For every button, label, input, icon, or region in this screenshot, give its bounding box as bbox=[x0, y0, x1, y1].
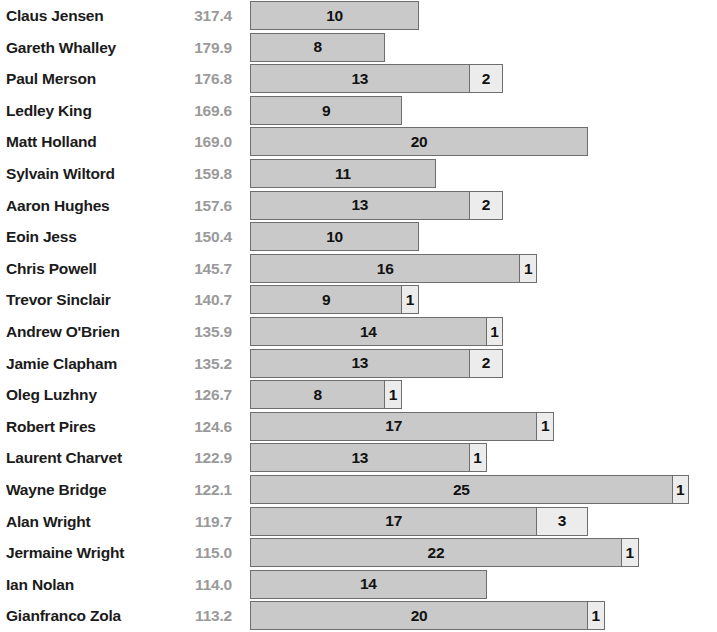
chart-row: Matt Holland169.020 bbox=[0, 126, 717, 158]
row-name-label: Alan Wright bbox=[6, 506, 170, 538]
bar-segment-primary-label: 9 bbox=[322, 103, 330, 119]
bar-segment-secondary-label: 1 bbox=[524, 261, 532, 277]
bar-segment-primary: 10 bbox=[250, 222, 419, 251]
row-value-label: 122.9 bbox=[160, 442, 232, 474]
chart-row: Jermaine Wright115.0221 bbox=[0, 537, 717, 569]
row-name-label: Chris Powell bbox=[6, 253, 170, 285]
bar-segment-secondary: 1 bbox=[485, 317, 503, 346]
bar-segment-secondary-label: 3 bbox=[558, 513, 566, 529]
bar-segment-secondary-label: 1 bbox=[592, 608, 600, 624]
bar-segment-primary-label: 13 bbox=[352, 355, 369, 371]
chart-row: Trevor Sinclair140.791 bbox=[0, 284, 717, 316]
chart-row: Gareth Whalley179.98 bbox=[0, 32, 717, 64]
row-name-label: Sylvain Wiltord bbox=[6, 158, 170, 190]
bar-segment-secondary: 1 bbox=[468, 443, 486, 472]
row-value-label: 140.7 bbox=[160, 284, 232, 316]
bar-segment-primary: 13 bbox=[250, 443, 470, 472]
bar-segment-primary: 20 bbox=[250, 601, 588, 630]
bar-segment-primary-label: 13 bbox=[352, 71, 369, 87]
bar-segment-primary: 9 bbox=[250, 285, 402, 314]
bar-track: 171 bbox=[250, 412, 717, 441]
bar-segment-secondary-label: 1 bbox=[541, 418, 549, 434]
row-name-label: Paul Merson bbox=[6, 63, 170, 95]
row-value-label: 179.9 bbox=[160, 32, 232, 64]
bar-track: 161 bbox=[250, 254, 717, 283]
bar-segment-secondary-label: 1 bbox=[406, 292, 414, 308]
bar-track: 9 bbox=[250, 96, 717, 125]
bar-track: 81 bbox=[250, 380, 717, 409]
bar-segment-primary: 20 bbox=[250, 127, 588, 156]
chart-row: Eoin Jess150.410 bbox=[0, 221, 717, 253]
bar-segment-primary-label: 10 bbox=[326, 8, 343, 24]
bar-segment-primary: 22 bbox=[250, 538, 622, 567]
row-name-label: Robert Pires bbox=[6, 411, 170, 443]
row-value-label: 114.0 bbox=[160, 569, 232, 601]
stacked-bar-chart: Claus Jensen317.410Gareth Whalley179.98P… bbox=[0, 0, 717, 632]
bar-segment-primary: 9 bbox=[250, 96, 402, 125]
bar-segment-primary-label: 22 bbox=[428, 545, 445, 561]
bar-track: 91 bbox=[250, 285, 717, 314]
row-name-label: Eoin Jess bbox=[6, 221, 170, 253]
bar-track: 10 bbox=[250, 222, 717, 251]
chart-row: Oleg Luzhny126.781 bbox=[0, 379, 717, 411]
row-value-label: 169.0 bbox=[160, 126, 232, 158]
row-value-label: 135.2 bbox=[160, 348, 232, 380]
bar-segment-primary-label: 8 bbox=[313, 39, 321, 55]
bar-segment-primary: 8 bbox=[250, 33, 385, 62]
bar-segment-secondary-label: 2 bbox=[482, 197, 490, 213]
bar-segment-primary: 13 bbox=[250, 349, 470, 378]
row-value-label: 150.4 bbox=[160, 221, 232, 253]
row-name-label: Ledley King bbox=[6, 95, 170, 127]
bar-segment-primary-label: 20 bbox=[411, 608, 428, 624]
bar-track: 251 bbox=[250, 475, 717, 504]
bar-segment-secondary: 2 bbox=[468, 64, 503, 93]
bar-segment-primary-label: 9 bbox=[322, 292, 330, 308]
bar-segment-primary: 14 bbox=[250, 570, 487, 599]
bar-segment-primary-label: 11 bbox=[335, 166, 351, 182]
bar-segment-primary-label: 25 bbox=[453, 482, 470, 498]
bar-segment-secondary: 1 bbox=[587, 601, 605, 630]
bar-segment-primary-label: 8 bbox=[313, 387, 321, 403]
row-value-label: 317.4 bbox=[160, 0, 232, 32]
bar-segment-primary: 14 bbox=[250, 317, 487, 346]
row-value-label: 176.8 bbox=[160, 63, 232, 95]
chart-row: Aaron Hughes157.6132 bbox=[0, 190, 717, 222]
bar-segment-primary-label: 17 bbox=[385, 418, 402, 434]
bar-track: 131 bbox=[250, 443, 717, 472]
bar-segment-secondary: 1 bbox=[620, 538, 638, 567]
bar-segment-primary-label: 13 bbox=[352, 197, 369, 213]
row-value-label: 122.1 bbox=[160, 474, 232, 506]
bar-segment-secondary: 1 bbox=[536, 412, 554, 441]
row-name-label: Oleg Luzhny bbox=[6, 379, 170, 411]
bar-segment-primary-label: 16 bbox=[377, 261, 394, 277]
bar-track: 132 bbox=[250, 349, 717, 378]
chart-row: Paul Merson176.8132 bbox=[0, 63, 717, 95]
bar-segment-secondary: 1 bbox=[671, 475, 689, 504]
chart-row: Gianfranco Zola113.2201 bbox=[0, 600, 717, 632]
row-value-label: 169.6 bbox=[160, 95, 232, 127]
bar-segment-primary: 25 bbox=[250, 475, 673, 504]
chart-row: Jamie Clapham135.2132 bbox=[0, 348, 717, 380]
chart-row: Ian Nolan114.014 bbox=[0, 569, 717, 601]
bar-segment-primary: 8 bbox=[250, 380, 385, 409]
bar-segment-primary: 10 bbox=[250, 1, 419, 30]
bar-track: 132 bbox=[250, 64, 717, 93]
row-value-label: 124.6 bbox=[160, 411, 232, 443]
chart-row: Robert Pires124.6171 bbox=[0, 411, 717, 443]
bar-segment-secondary: 2 bbox=[468, 349, 503, 378]
row-value-label: 119.7 bbox=[160, 506, 232, 538]
bar-segment-secondary-label: 2 bbox=[482, 355, 490, 371]
bar-track: 20 bbox=[250, 127, 717, 156]
row-name-label: Matt Holland bbox=[6, 126, 170, 158]
row-name-label: Gianfranco Zola bbox=[6, 600, 170, 632]
bar-segment-primary-label: 13 bbox=[352, 450, 369, 466]
row-value-label: 113.2 bbox=[160, 600, 232, 632]
chart-row: Wayne Bridge122.1251 bbox=[0, 474, 717, 506]
chart-row: Ledley King169.69 bbox=[0, 95, 717, 127]
bar-segment-primary-label: 10 bbox=[326, 229, 343, 245]
bar-segment-secondary-label: 1 bbox=[490, 324, 498, 340]
row-name-label: Gareth Whalley bbox=[6, 32, 170, 64]
bar-segment-primary: 13 bbox=[250, 64, 470, 93]
row-name-label: Wayne Bridge bbox=[6, 474, 170, 506]
row-value-label: 126.7 bbox=[160, 379, 232, 411]
